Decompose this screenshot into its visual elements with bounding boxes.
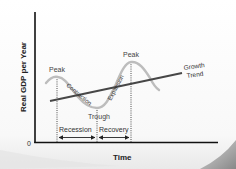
recovery-label: Recovery bbox=[99, 126, 129, 134]
peak-left-label: Peak bbox=[49, 66, 65, 73]
business-cycle-diagram: Real GDP per Year 0 Time Peak Peak Troug… bbox=[0, 0, 236, 169]
x-axis-label: Time bbox=[113, 153, 132, 162]
origin-label: 0 bbox=[27, 140, 31, 147]
y-axis-label: Real GDP per Year bbox=[19, 42, 28, 112]
peak-right-label: Peak bbox=[123, 51, 139, 58]
trough-label: Trough bbox=[88, 113, 110, 121]
recession-label: Recession bbox=[59, 126, 92, 133]
